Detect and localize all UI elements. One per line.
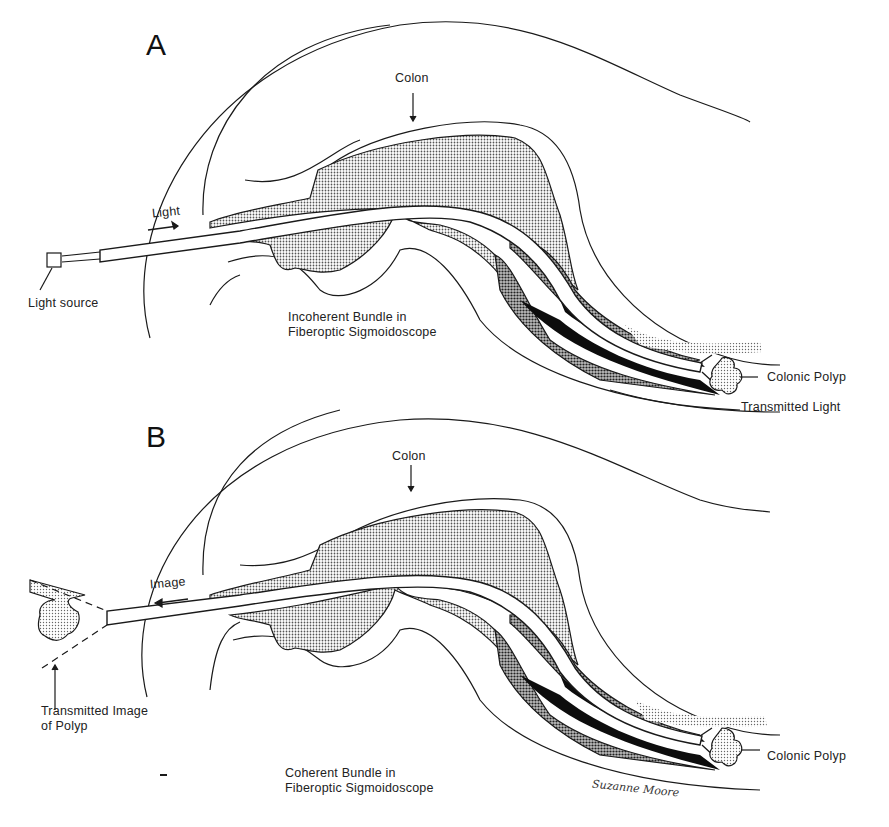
- panel-b-image-label: Image: [149, 574, 186, 592]
- panel-b-polyp-label: Colonic Polyp: [767, 749, 846, 764]
- transmitted-image-label-line1: Transmitted Image: [41, 704, 148, 719]
- transmitted-light-label: Transmitted Light: [741, 400, 841, 415]
- scope-tube-b: [107, 575, 702, 745]
- panel-a-letter: A: [146, 30, 166, 60]
- polyp-b: [710, 728, 742, 766]
- panel-a-colon-label: Colon: [395, 71, 429, 86]
- light-source-box: [47, 253, 61, 267]
- transmitted-image-label-line2: of Polyp: [41, 719, 88, 734]
- light-source-label: Light source: [28, 296, 99, 311]
- panel-a-light-label: Light: [151, 204, 181, 222]
- panel-a-polyp-label: Colonic Polyp: [767, 370, 846, 385]
- light-cable: [62, 252, 100, 262]
- panel-b: [30, 410, 780, 790]
- incoherent-bundle-label-line2: Fiberoptic Sigmoidoscope: [288, 325, 437, 340]
- polyp-a: [710, 357, 742, 393]
- incoherent-bundle-label-line1: Incoherent Bundle in: [288, 310, 407, 325]
- transmitted-polyp-image: [30, 580, 85, 640]
- panel-b-colon-label: Colon: [392, 449, 426, 464]
- coherent-bundle-label-line2: Fiberoptic Sigmoidoscope: [285, 781, 434, 796]
- panel-b-letter: B: [146, 422, 166, 452]
- coherent-bundle-label-line1: Coherent Bundle in: [285, 766, 396, 781]
- scope-tube: [100, 206, 702, 372]
